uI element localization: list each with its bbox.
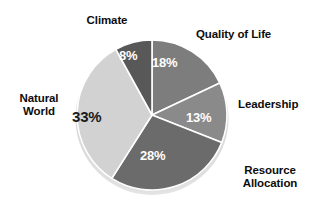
slice-label-natural-world: Natural World: [4, 92, 74, 117]
slice-label-resource-allocation: Resource Allocation: [224, 164, 316, 189]
pie-chart-figure: Climate Quality of Life Leadership Resou…: [0, 0, 321, 219]
slice-value-resource-allocation: 28%: [140, 148, 165, 163]
slice-value-climate: 8%: [119, 48, 137, 63]
slice-value-leadership: 13%: [186, 110, 211, 125]
slice-value-natural-world: 33%: [72, 108, 101, 125]
slice-label-quality-of-life: Quality of Life: [196, 28, 308, 41]
slice-value-quality-of-life: 18%: [152, 55, 177, 70]
slice-label-climate: Climate: [72, 14, 142, 27]
slice-label-leadership: Leadership: [238, 98, 320, 111]
